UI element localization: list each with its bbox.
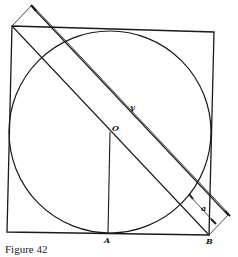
label-B: B — [205, 236, 213, 246]
label-a: a — [201, 203, 206, 213]
figure-caption: Figure 42 — [5, 243, 47, 255]
diagonal-line — [12, 26, 209, 235]
label-O: O — [112, 123, 119, 133]
label-A: A — [103, 235, 110, 245]
extension-line-top — [12, 5, 32, 26]
geometry-figure: y O A B a — [0, 0, 238, 257]
parallel-line — [34, 9, 228, 215]
extension-line-bottom — [209, 214, 229, 235]
tick-mark-a-bottom — [211, 219, 216, 224]
radius-segment-OA — [108, 132, 110, 233]
label-y: y — [129, 102, 136, 112]
tick-mark-a-top — [189, 194, 193, 199]
